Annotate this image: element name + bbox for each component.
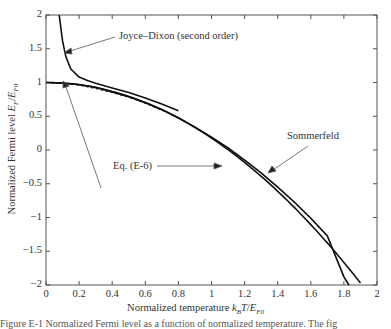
x-tick-label: 0 xyxy=(36,288,56,299)
annotation-arrows xyxy=(63,37,308,188)
y-tick-label: 2 xyxy=(10,8,42,19)
x-tick-label: 0.8 xyxy=(168,288,188,299)
x-tick-label: 1.8 xyxy=(334,288,354,299)
label-eq-e6: Eq. (E-6) xyxy=(113,160,152,171)
x-tick-label: 1.4 xyxy=(268,288,288,299)
label-joyce-dixon: Joyce–Dixon (second order) xyxy=(119,30,238,41)
label-sommerfeld: Sommerfeld xyxy=(287,130,339,141)
x-tick-label: 1.6 xyxy=(301,288,321,299)
y-axis-label-text: Normalized Fermi level xyxy=(6,112,17,215)
curve-dashed-exact xyxy=(46,83,349,286)
curve-eq-e-6 xyxy=(46,83,349,286)
x-tick-label: 2 xyxy=(367,288,387,299)
figure-caption: Figure E-1 Normalized Fermi level as a f… xyxy=(0,318,337,329)
y-tick-label: −2 xyxy=(10,278,42,289)
axes-frame xyxy=(46,15,377,285)
x-axis-label-text: Normalized temperature xyxy=(127,302,232,313)
y-tick-label: −1.5 xyxy=(10,244,42,255)
axis-ticks xyxy=(46,15,377,285)
x-tick-label: 0.6 xyxy=(135,288,155,299)
x-axis-label: Normalized temperature kBT/EF0 xyxy=(0,302,391,316)
x-tick-label: 1.2 xyxy=(235,288,255,299)
x-tick-label: 1 xyxy=(202,288,222,299)
x-tick-label: 0.2 xyxy=(69,288,89,299)
y-tick-label: 1.5 xyxy=(10,42,42,53)
x-tick-label: 0.4 xyxy=(102,288,122,299)
curves xyxy=(46,15,361,285)
curve-sommerfeld xyxy=(46,83,361,283)
y-axis-label: Normalized Fermi level EF/EF0 xyxy=(6,74,20,224)
